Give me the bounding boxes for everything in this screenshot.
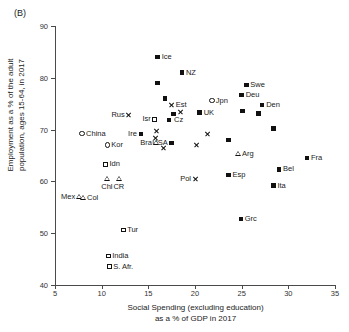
x-axis-label-line1: Social Spending (excluding education)	[55, 302, 336, 313]
point-label: Ita	[277, 182, 285, 190]
x-cross-icon	[194, 142, 200, 148]
y-axis-label: Employment as a % of the adult populatio…	[5, 15, 27, 215]
x-cross-icon	[126, 112, 132, 118]
point-label: Deu	[246, 91, 260, 99]
x-cross-icon	[169, 102, 175, 108]
filled-square-icon	[167, 118, 171, 122]
point-label: Grc	[245, 215, 257, 223]
point-label: Est	[176, 101, 187, 109]
point-label: CR	[113, 183, 124, 191]
open-square-icon	[152, 117, 157, 122]
filled-square-icon	[239, 93, 243, 97]
scatter-plot-area: IceNZSweDeuJpnEstDenUKCzRusIsrChinaIreUS…	[55, 26, 335, 285]
point-label: Rus	[111, 111, 124, 119]
open-triangle-icon	[116, 176, 122, 181]
filled-square-icon	[139, 132, 143, 136]
open-circle-icon	[79, 131, 84, 136]
open-circle-icon	[105, 142, 110, 147]
filled-square-icon	[226, 173, 230, 177]
filled-square-icon	[163, 96, 167, 100]
x-axis-label-line2: as a % of GDP in 2017	[55, 313, 336, 324]
filled-square-icon	[155, 55, 159, 59]
point-label: Arg	[242, 150, 254, 158]
point-label: Col	[87, 194, 98, 202]
point-label: Jpn	[216, 97, 228, 105]
x-tick-label: 10	[92, 289, 112, 298]
point-label: Bra	[140, 139, 152, 147]
y-tick-label: 80	[28, 74, 48, 83]
y-axis-label-line1: Employment as a % of the adult	[5, 15, 16, 215]
x-cross-icon	[154, 128, 160, 134]
point-label: Bel	[283, 165, 294, 173]
filled-square-icon	[197, 110, 201, 114]
figure-panel-b: (B) 4050607080905101520253035 Employment…	[0, 0, 349, 332]
point-label: China	[86, 130, 106, 138]
point-label: Cz	[174, 116, 183, 124]
filled-square-icon	[155, 81, 159, 85]
point-label: Isr	[143, 115, 151, 123]
point-label: Esp	[233, 171, 246, 179]
filled-square-icon	[256, 111, 260, 115]
filled-square-icon	[260, 103, 264, 107]
y-tick-label: 70	[28, 126, 48, 135]
point-label: Tur	[127, 226, 138, 234]
x-cross-icon	[204, 131, 210, 137]
point-label: India	[112, 252, 128, 260]
point-label: Mex	[61, 193, 75, 201]
open-square-icon	[107, 264, 112, 269]
x-tick-label: 5	[45, 289, 65, 298]
point-label: Chl	[101, 183, 112, 191]
x-cross-icon	[192, 176, 198, 182]
point-label: S. Afr.	[113, 263, 133, 271]
x-cross-icon	[153, 135, 159, 141]
filled-square-icon	[240, 109, 244, 113]
filled-square-icon	[271, 126, 275, 130]
x-tick-label: 15	[138, 289, 158, 298]
point-label: Fra	[311, 154, 322, 162]
open-square-icon	[106, 254, 111, 259]
point-label: NZ	[186, 69, 196, 77]
point-label: Swe	[250, 81, 265, 89]
filled-square-icon	[226, 138, 230, 142]
point-label: Ice	[162, 53, 172, 61]
x-tick-label: 35	[325, 289, 345, 298]
filled-square-icon	[180, 70, 184, 74]
y-tick-label: 60	[28, 177, 48, 186]
y-axis-label-line2: population, ages 15-64, in 2017	[16, 15, 27, 215]
y-tick-label: 90	[28, 22, 48, 31]
filled-square-icon	[169, 141, 173, 145]
point-label: Pol	[180, 175, 191, 183]
open-square-icon	[121, 228, 126, 233]
open-triangle-icon	[235, 151, 241, 156]
open-triangle-icon	[104, 176, 110, 181]
filled-square-icon	[239, 217, 243, 221]
filled-square-icon	[244, 83, 248, 87]
point-label: Ire	[128, 130, 137, 138]
y-tick-label: 50	[28, 229, 48, 238]
filled-square-icon	[277, 167, 281, 171]
x-cross-icon	[160, 145, 166, 151]
x-axis-label: Social Spending (excluding education) as…	[55, 302, 336, 324]
point-label: Kor	[111, 141, 123, 149]
open-square-icon	[103, 162, 108, 167]
x-tick-label: 30	[278, 289, 298, 298]
open-triangle-icon	[80, 195, 86, 200]
point-label: UK	[204, 109, 214, 117]
filled-square-icon	[171, 112, 175, 116]
filled-square-icon	[271, 183, 275, 187]
x-tick-label: 20	[185, 289, 205, 298]
filled-square-icon	[305, 156, 309, 160]
x-tick-label: 25	[232, 289, 252, 298]
point-label: Den	[266, 101, 280, 109]
open-circle-icon	[209, 98, 214, 103]
point-label: Idn	[109, 160, 119, 168]
